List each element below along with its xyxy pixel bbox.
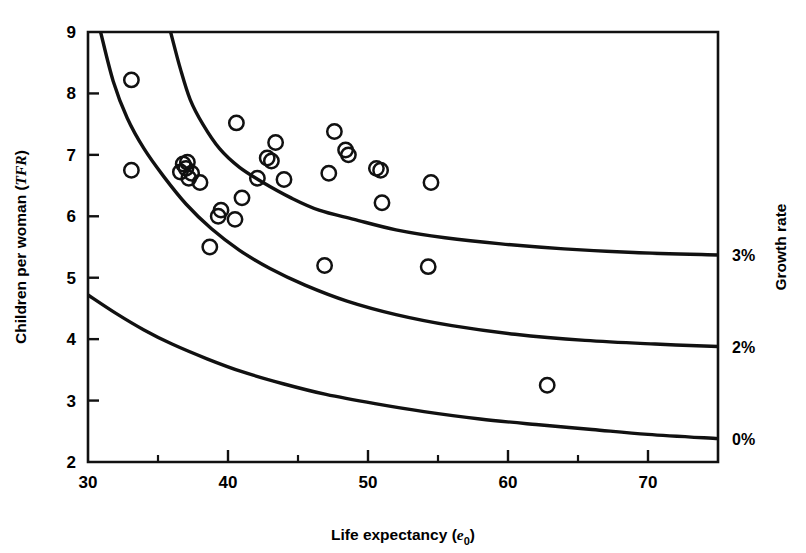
right-tick-label-3%: 3% [732,247,755,264]
y-tick-label-6: 6 [67,207,76,226]
x-tick-label-70: 70 [639,473,658,492]
y-tick-label-2: 2 [67,453,76,472]
x-tick-label-30: 30 [79,473,98,492]
chart-background [0,0,806,553]
y-axis-title: Children per woman (TFR) [12,150,29,344]
y-tick-label-5: 5 [67,269,76,288]
y-tick-label-7: 7 [67,146,76,165]
x-tick-label-60: 60 [499,473,518,492]
x-tick-label-40: 40 [219,473,238,492]
y-tick-label-3: 3 [67,392,76,411]
fertility-life-expectancy-chart: 23456789 3040506070 3%2%0% Children per … [0,0,806,553]
y-tick-label-4: 4 [67,330,77,349]
y-tick-label-9: 9 [67,23,76,42]
chart-figure: 23456789 3040506070 3%2%0% Children per … [0,0,806,553]
x-tick-label-50: 50 [359,473,378,492]
y-tick-label-8: 8 [67,84,76,103]
right-tick-label-2%: 2% [732,339,755,356]
right-tick-label-0%: 0% [732,431,755,448]
right-axis-title: Growth rate [772,203,789,290]
